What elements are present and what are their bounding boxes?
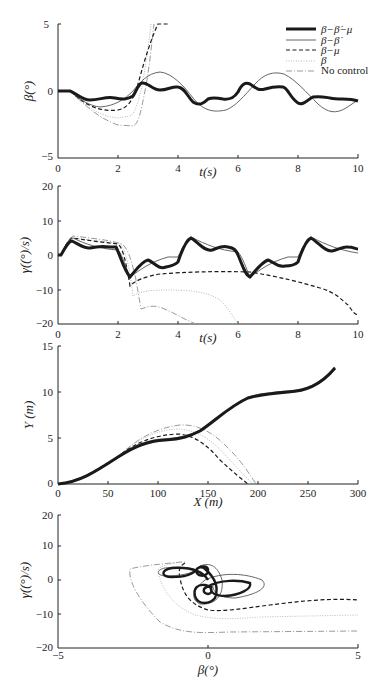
chart2-series-no-control	[58, 236, 196, 324]
chart2-ytick: 0	[48, 249, 54, 261]
chart2-ytick: 20	[42, 180, 54, 192]
chart1-ytick: −5	[41, 150, 53, 162]
chart4-ticks	[58, 515, 358, 648]
chart2-ticks	[58, 186, 358, 324]
chart1-xtick: 2	[115, 162, 121, 174]
chart1-axes	[58, 24, 358, 158]
chart1-xtick: 4	[175, 162, 181, 174]
chart4-ytick: 10	[42, 539, 54, 551]
chart-beta-vs-time: 5 0 −5 0 2 4 6 8 10 t(s) β(°) β−β̇−μ β−β…	[21, 18, 368, 179]
chart3-xlabel: X (m)	[192, 494, 222, 509]
chart2-xtick: 6	[235, 328, 241, 340]
chart1-series-beta	[58, 24, 151, 118]
chart4-ytick: 0	[48, 573, 54, 585]
chart1-xtick: 0	[55, 162, 61, 174]
chart3-xtick: 200	[250, 487, 267, 499]
chart3-series-beta-betadot-mu	[58, 368, 335, 484]
chart4-xlabel: β(°)	[197, 662, 218, 677]
chart1-ytick: 0	[48, 85, 54, 97]
chart2-xlabel: t(s)	[199, 330, 216, 345]
chart1-xtick: 8	[295, 162, 301, 174]
chart1-xlabel: t(s)	[199, 164, 216, 179]
chart2-xtick: 2	[115, 328, 121, 340]
chart-trajectory-y-vs-x: 15 10 5 0 0 50 100 150 200 250 300 X (m)…	[21, 340, 367, 509]
chart4-xtick: −5	[52, 649, 64, 661]
chart1-ticks	[58, 24, 358, 158]
chart3-ylabel: Y (m)	[21, 401, 36, 430]
chart1-ylabel: β(°)	[21, 81, 36, 102]
chart3-xtick: 100	[150, 487, 167, 499]
chart3-series-beta-betadot	[58, 367, 335, 484]
figure-canvas: 5 0 −5 0 2 4 6 8 10 t(s) β(°) β−β̇−μ β−β…	[0, 0, 382, 693]
chart3-ytick: 15	[42, 340, 54, 352]
chart-phase-plane: 20 10 0 −10 −20 −5 0 5 β(°) γ((°)/s)	[17, 509, 361, 677]
chart4-ytick: −20	[36, 641, 54, 653]
chart3-xtick: 0	[55, 487, 61, 499]
chart3-ytick: 0	[48, 477, 54, 489]
chart1-series-beta-betadot-mu	[58, 83, 358, 104]
chart3-xtick: 250	[300, 487, 317, 499]
chart1-xtick: 6	[235, 162, 241, 174]
chart2-xtick: 4	[175, 328, 181, 340]
chart3-axes	[58, 346, 358, 484]
chart4-axes	[58, 515, 358, 648]
chart4-ylabel: γ((°)/s)	[17, 562, 32, 598]
chart3-xtick: 300	[350, 487, 367, 499]
chart3-ticks	[58, 346, 358, 484]
chart2-ytick: −10	[36, 284, 54, 296]
chart4-xtick: 0	[205, 649, 211, 661]
chart4-ytick: −10	[36, 608, 54, 620]
chart2-xtick: 10	[353, 328, 365, 340]
chart4-ytick: 20	[42, 509, 54, 521]
chart2-xtick: 8	[295, 328, 301, 340]
chart1-ytick: 5	[44, 18, 50, 30]
chart2-ylabel: γ((°)/s)	[17, 237, 32, 273]
chart2-axes	[58, 186, 358, 324]
chart3-ytick: 5	[48, 432, 54, 444]
chart4-xtick: 5	[355, 649, 361, 661]
chart4-series-beta	[158, 562, 358, 619]
chart1-xtick: 10	[353, 162, 365, 174]
chart3-xtick: 50	[103, 487, 115, 499]
legend: β−β̇−μ β−β̇ β−μ β No control	[286, 23, 368, 76]
chart3-ytick: 10	[42, 386, 54, 398]
chart-yaw-rate-vs-time: 20 10 0 −10 −20 0 2 4 6 8 10 t(s) γ((°)/…	[17, 180, 364, 345]
chart2-ytick: −20	[36, 317, 54, 329]
chart2-xtick: 0	[55, 328, 61, 340]
legend-label: No control	[321, 64, 368, 76]
chart2-ytick: 10	[42, 215, 54, 227]
chart1-series-beta-betadot	[58, 72, 358, 112]
